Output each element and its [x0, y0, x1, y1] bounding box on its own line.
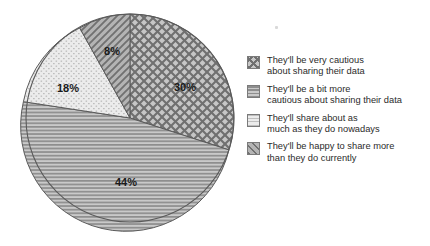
legend-item-very-cautious[interactable]: They'll be very cautious about sharing t… — [247, 55, 430, 78]
pie-label-44: 44% — [115, 176, 137, 188]
chart-legend: They'll be very cautious about sharing t… — [247, 55, 430, 170]
legend-label-very-cautious: They'll be very cautious about sharing t… — [267, 55, 365, 78]
pie-chart-figure: 30% 44% 18% 8% They'll be very cautious … — [0, 0, 430, 246]
legend-swatch-happy-to-share-more — [247, 142, 260, 155]
legend-label-bit-more-cautious: They'll be a bit more cautious about sha… — [267, 84, 402, 107]
legend-label-happy-to-share-more: They'll be happy to share more than they… — [267, 141, 394, 164]
legend-swatch-bit-more-cautious — [247, 85, 260, 98]
pie-label-18: 18% — [57, 82, 79, 94]
stray-mark — [275, 26, 278, 29]
pie-label-30: 30% — [174, 81, 196, 93]
pie-label-8: 8% — [104, 45, 120, 57]
legend-item-same-as-nowadays[interactable]: They'll share about as much as they do n… — [247, 113, 430, 136]
legend-label-same-as-nowadays: They'll share about as much as they do n… — [267, 113, 380, 136]
legend-swatch-very-cautious — [247, 56, 260, 69]
legend-item-bit-more-cautious[interactable]: They'll be a bit more cautious about sha… — [247, 84, 430, 107]
legend-item-happy-to-share-more[interactable]: They'll be happy to share more than they… — [247, 141, 430, 164]
legend-swatch-same-as-nowadays — [247, 114, 260, 127]
